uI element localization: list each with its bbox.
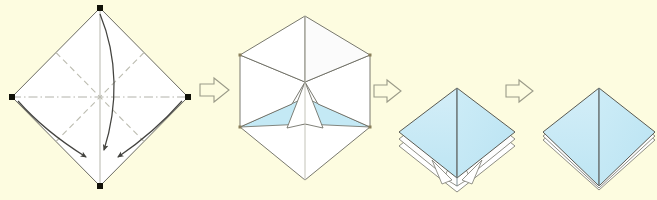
origami-diagram-root: Origami Preliminary Base Folding Sequenc… <box>0 0 657 200</box>
vertex-dot-top <box>97 5 103 11</box>
vertex-dot-right <box>185 94 191 100</box>
vertex-dot-left <box>9 94 15 100</box>
step-2-vertex-mid-left <box>239 126 242 129</box>
step-2-vertex-mid-right <box>369 126 372 129</box>
step-2-vertex-upper-left <box>239 54 242 57</box>
step-2-vertex-upper-right <box>369 54 372 57</box>
vertex-dot-bottom <box>97 183 103 189</box>
origami-sequence-svg <box>0 0 657 200</box>
